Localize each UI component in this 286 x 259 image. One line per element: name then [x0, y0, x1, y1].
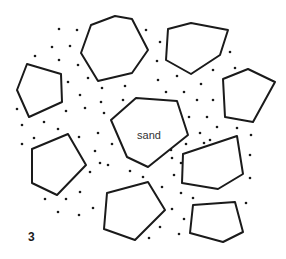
- sand-grain-dot: [124, 85, 127, 88]
- sand-grain-dot: [33, 137, 36, 140]
- stone-top-right: [166, 23, 228, 74]
- stone-right: [223, 69, 275, 122]
- sand-grain-dot: [92, 207, 95, 210]
- sand-grain-dot: [57, 211, 60, 214]
- sand-grain-dot: [65, 110, 68, 113]
- sand-grain-dot: [87, 77, 90, 80]
- sand-grain-dot: [43, 121, 46, 124]
- sand-grain-dot: [245, 202, 248, 205]
- sand-grain-dot: [142, 176, 145, 179]
- sand-grain-dot: [145, 29, 148, 32]
- sand-grain-dot: [212, 99, 215, 102]
- sand-grain-dot: [148, 237, 151, 240]
- sand-grain-dot: [79, 94, 82, 97]
- sand-grain-dot: [67, 81, 70, 84]
- sand-grain-dot: [229, 51, 232, 54]
- sand-grain-dot: [209, 139, 212, 142]
- sand-grain-dot: [94, 150, 97, 153]
- sand-grain-dot: [103, 112, 106, 115]
- sand-grain-dot: [58, 59, 61, 62]
- sand-grain-dot: [51, 46, 54, 49]
- sand-grain-dot: [185, 143, 188, 146]
- sand-grain-dot: [89, 171, 92, 174]
- stone-left: [17, 64, 62, 117]
- sand-grain-dot: [101, 87, 104, 90]
- sand-grain-dot: [78, 214, 81, 217]
- sand-grain-dot: [97, 132, 100, 135]
- sand-grain-dot: [21, 124, 24, 127]
- sand-grain-dot: [200, 83, 203, 86]
- sand-grain-dot: [180, 192, 183, 195]
- sand-grain-dot: [199, 132, 202, 135]
- sand-grain-dot: [236, 127, 239, 130]
- sand-grain-dot: [249, 177, 252, 180]
- sand-grain-dot: [16, 108, 19, 111]
- sand-grain-dot: [192, 197, 195, 200]
- sand-grain-dot: [159, 41, 162, 44]
- sand-grain-dot: [173, 174, 176, 177]
- sand-grain-dot: [157, 79, 160, 82]
- sand-grain-dot: [58, 28, 61, 31]
- sand-grain-dot: [129, 170, 132, 173]
- sand-grain-dot: [212, 69, 215, 72]
- sand-grain-dot: [57, 128, 60, 131]
- stone-middle-right: [182, 136, 243, 189]
- sand-grain-dot: [250, 134, 253, 137]
- sand-grain-dot: [107, 164, 110, 167]
- stone-bottom-left: [32, 134, 86, 195]
- sand-grain-dot: [77, 64, 80, 67]
- sand-grain-dot: [65, 198, 68, 201]
- sand-grain-dot: [100, 101, 103, 104]
- sand-grain-dot: [203, 142, 206, 145]
- stone-bottom-center: [104, 182, 165, 240]
- sand-grain-dot: [156, 60, 159, 63]
- sand-grain-dot: [196, 99, 199, 102]
- sand-grain-dot: [69, 45, 72, 48]
- sand-grain-dot: [216, 126, 219, 129]
- sand-grain-dot: [78, 136, 81, 139]
- sand-grain-dot: [44, 198, 47, 201]
- sand-grains-diagram: sand 3: [0, 0, 286, 259]
- sand-grain-dot: [234, 67, 237, 70]
- sand-grain-dot: [165, 91, 168, 94]
- sand-grain-dot: [111, 143, 114, 146]
- sand-grain-dot: [84, 107, 87, 110]
- stone-top-center: [81, 16, 148, 81]
- sand-grain-dot: [159, 226, 162, 229]
- sand-grain-dot: [34, 55, 37, 58]
- sand-grain-dot: [122, 99, 125, 102]
- sand-grain-dot: [79, 191, 82, 194]
- sand-label: sand: [137, 129, 161, 141]
- sand-grain-dot: [188, 116, 191, 119]
- sand-grain-dot: [183, 218, 186, 221]
- stone-bottom-right: [190, 202, 243, 242]
- sand-grain-dot: [178, 233, 181, 236]
- sand-grain-dot: [183, 91, 186, 94]
- sand-grain-dot: [249, 154, 252, 157]
- sand-grain-dot: [171, 157, 174, 160]
- sand-grain-dot: [206, 116, 209, 119]
- sand-grain-dot: [176, 75, 179, 78]
- sand-grain-dot: [21, 143, 24, 146]
- sand-grain-dot: [161, 186, 164, 189]
- sand-grain-dot: [99, 162, 102, 165]
- sand-grain-dot: [76, 29, 79, 32]
- sand-grain-dot: [171, 208, 174, 211]
- figure-number: 3: [28, 230, 35, 244]
